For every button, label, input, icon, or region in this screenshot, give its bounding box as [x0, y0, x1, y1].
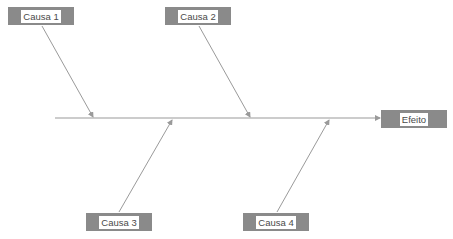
cause-1-arrow [42, 26, 93, 117]
cause-3-label: Causa 3 [99, 216, 138, 229]
cause-4-label: Causa 4 [256, 216, 295, 229]
cause-1-label: Causa 1 [21, 10, 60, 23]
cause-2-arrow [199, 26, 250, 117]
cause-3-box: Causa 3 [86, 213, 152, 231]
effect-box: Efeito [381, 110, 447, 128]
cause-4-arrow [277, 120, 329, 212]
cause-2-box: Causa 2 [165, 7, 231, 25]
effect-label: Efeito [400, 113, 428, 126]
cause-3-arrow [119, 120, 172, 212]
cause-1-box: Causa 1 [8, 7, 74, 25]
cause-4-box: Causa 4 [243, 213, 309, 231]
cause-2-label: Causa 2 [178, 10, 217, 23]
